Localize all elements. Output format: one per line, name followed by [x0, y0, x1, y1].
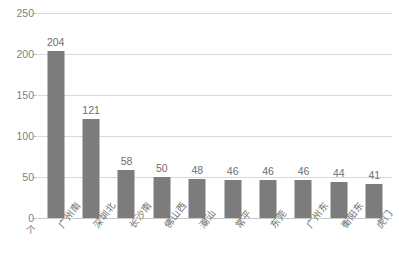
bar[interactable]	[47, 51, 64, 218]
bar-value-label: 204	[47, 36, 65, 48]
bar[interactable]	[83, 119, 100, 218]
bar-series: 2041215850484646464441	[38, 13, 392, 218]
unit-label: 个	[26, 222, 36, 236]
bar-slot: 48	[180, 13, 215, 218]
plot-area: 2041215850484646464441	[38, 13, 392, 218]
bar-value-label: 44	[333, 167, 345, 179]
bar-slot: 46	[215, 13, 250, 218]
bar-slot: 44	[321, 13, 356, 218]
y-axis-tick-label: 150	[0, 89, 34, 101]
bar-slot: 58	[109, 13, 144, 218]
y-axis-tick-label: 250	[0, 7, 34, 19]
bar-slot: 46	[250, 13, 285, 218]
bar-slot: 41	[357, 13, 392, 218]
x-axis-labels: 广州南深圳北长沙南佛山西潮汕常平东莞广州东衡阳东虎门	[38, 220, 392, 272]
bar-value-label: 46	[227, 165, 239, 177]
bar-slot: 50	[144, 13, 179, 218]
bar-slot: 46	[286, 13, 321, 218]
y-axis-tick-label: 100	[0, 130, 34, 142]
bar-value-label: 46	[262, 165, 274, 177]
bar-value-label: 41	[368, 169, 380, 181]
bar-slot: 121	[73, 13, 108, 218]
bar-slot: 204	[38, 13, 73, 218]
bar-value-label: 46	[298, 165, 310, 177]
y-axis-tick-label: 50	[0, 171, 34, 183]
bar-value-label: 48	[191, 164, 203, 176]
y-axis-tick-label: 200	[0, 48, 34, 60]
bar-value-label: 58	[121, 155, 133, 167]
bar-value-label: 50	[156, 162, 168, 174]
bar-value-label: 121	[82, 104, 100, 116]
bar-chart: 2041215850484646464441 050100150200250 广…	[0, 0, 399, 272]
